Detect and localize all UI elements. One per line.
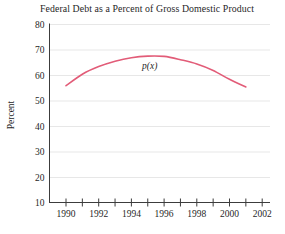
y-axis-tick-labels: 8070605040302010 <box>35 20 45 209</box>
y-tick-label-30: 30 <box>35 147 45 157</box>
x-tick-label-2000: 2000 <box>220 209 239 219</box>
x-tick-label-1994: 1994 <box>122 209 141 219</box>
y-tick-label-50: 50 <box>35 96 45 106</box>
x-tick-label-1996: 1996 <box>155 209 174 219</box>
y-tick-label-70: 70 <box>35 45 45 55</box>
x-tick-label-1998: 1998 <box>187 209 206 219</box>
y-tick-label-60: 60 <box>35 71 45 81</box>
gridlines <box>50 25 271 178</box>
x-tick-label-1990: 1990 <box>57 209 76 219</box>
curve-label: p(x) <box>141 61 157 72</box>
x-axis-tick-labels: 1990199219941996199820002002 <box>57 209 272 219</box>
x-tick-label-2002: 2002 <box>253 209 272 219</box>
y-tick-label-10: 10 <box>35 198 45 208</box>
y-tick-label-40: 40 <box>35 122 45 132</box>
x-tick-label-1992: 1992 <box>89 209 108 219</box>
chart-figure: Federal Debt as a Percent of Gross Domes… <box>0 0 285 234</box>
y-tick-label-80: 80 <box>35 20 45 30</box>
plot-area: 8070605040302010 19901992199419961998200… <box>0 0 285 234</box>
y-tick-label-20: 20 <box>35 173 45 183</box>
